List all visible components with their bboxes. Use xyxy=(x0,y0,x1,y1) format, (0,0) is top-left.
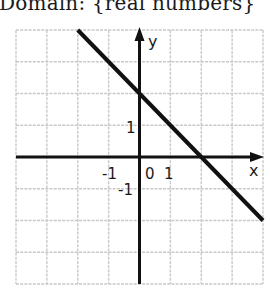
y-axis-arrow-icon xyxy=(135,27,145,41)
coordinate-plane: x y -1 0 1 1 -1 xyxy=(0,0,270,293)
x-axis-label: x xyxy=(249,161,258,180)
y-tick-label-1: 1 xyxy=(126,119,136,137)
x-tick-label-0: 0 xyxy=(145,165,155,183)
x-tick-label-1: 1 xyxy=(164,165,174,183)
y-axis-label: y xyxy=(148,32,157,51)
y-tick-label-neg1: -1 xyxy=(118,181,133,199)
x-tick-label-neg1: -1 xyxy=(102,165,117,183)
